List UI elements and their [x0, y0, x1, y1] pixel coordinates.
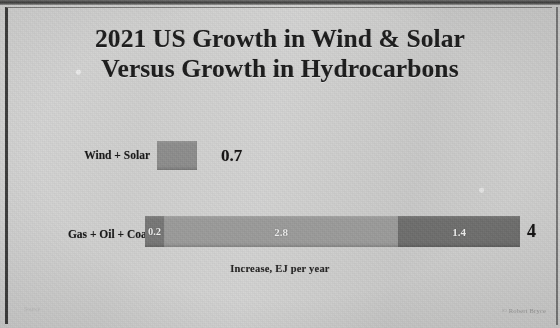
bar-segment-gas-oil-coal-1: 0.2	[145, 216, 164, 247]
bar-total-wind-solar: 0.7	[221, 146, 242, 166]
bar-wind-solar	[157, 141, 197, 170]
slide-canvas: 2021 US Growth in Wind & Solar Versus Gr…	[0, 0, 560, 328]
scan-top-edge	[0, 0, 560, 5]
bar-gas-oil-coal: 0.2 2.8 1.4	[145, 216, 520, 247]
category-label-gas-oil-coal: Gas + Oil + Coal	[18, 228, 150, 240]
axis-caption: Increase, EJ per year	[0, 263, 560, 274]
bar-total-gas-oil-coal: 4	[527, 221, 536, 242]
bar-segment-wind-solar-1	[157, 141, 197, 170]
chart-title-line-1: 2021 US Growth in Wind & Solar	[28, 24, 532, 54]
chart-title: 2021 US Growth in Wind & Solar Versus Gr…	[28, 24, 532, 84]
category-label-wind-solar: Wind + Solar	[24, 149, 150, 161]
source-mark: Source	[24, 306, 40, 312]
bar-segment-gas-oil-coal-3: 1.4	[398, 216, 520, 247]
credit-line: © Robert Bryce	[502, 307, 546, 314]
chart-title-line-2: Versus Growth in Hydrocarbons	[28, 54, 532, 84]
bar-segment-gas-oil-coal-2: 2.8	[164, 216, 398, 247]
scan-right-edge	[556, 7, 558, 325]
